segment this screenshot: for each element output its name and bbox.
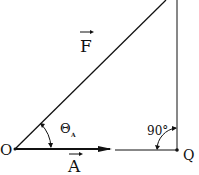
theta-subscript: A <box>70 131 76 138</box>
origin-label: O <box>0 141 12 159</box>
vector-f-label: F <box>80 36 92 56</box>
vector-diagram: O Q F A Θ A 90° <box>0 0 199 175</box>
right-arc-arrowhead-top <box>172 126 177 131</box>
q-label: Q <box>183 147 194 163</box>
theta-label: Θ <box>60 121 71 136</box>
right-arc-arrowhead-bottom <box>155 145 160 150</box>
vector-f-line <box>15 0 166 149</box>
vector-a-label: A <box>67 156 81 175</box>
origin-point <box>14 148 17 151</box>
vector-a-arrowhead <box>98 146 112 152</box>
vector-a-overarrow-head <box>79 152 83 156</box>
q-point <box>175 148 179 152</box>
vector-f-overarrow-head <box>90 30 94 34</box>
theta-arc-arrowhead-bottom <box>48 143 53 148</box>
right-angle-label: 90° <box>147 124 168 138</box>
